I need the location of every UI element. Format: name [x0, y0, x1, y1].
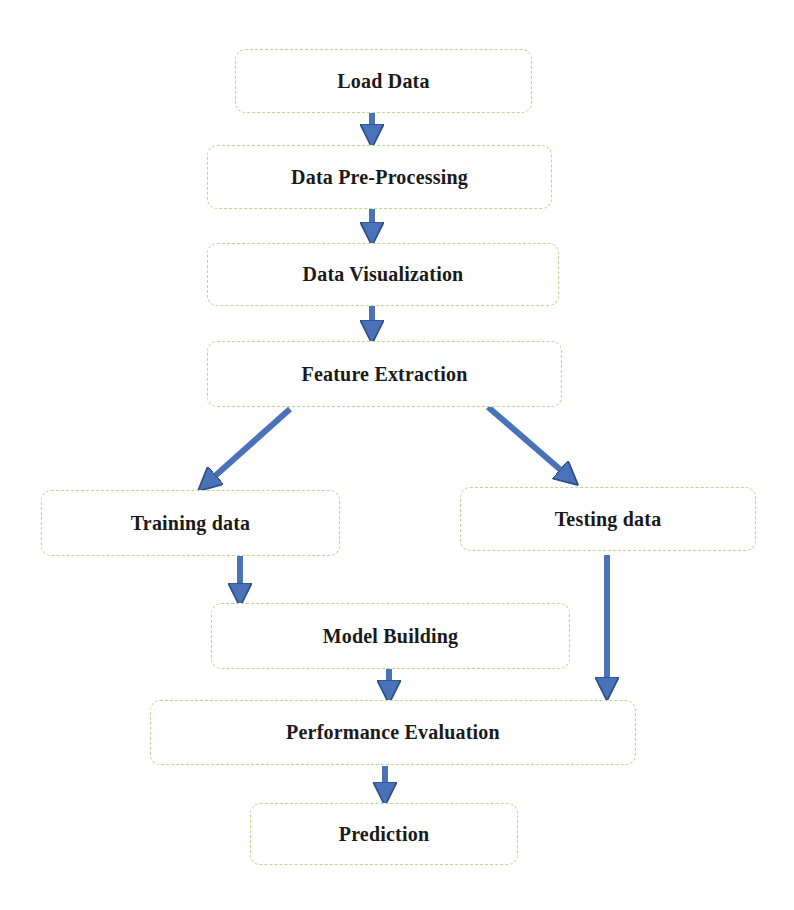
node-training-data: Training data [41, 490, 340, 556]
flowchart-canvas: Load Data Data Pre-Processing Data Visua… [0, 0, 794, 910]
node-data-visualization: Data Visualization [207, 243, 559, 306]
node-performance-evaluation: Performance Evaluation [150, 700, 636, 765]
node-label: Training data [131, 512, 250, 535]
arrow-features-to-testing [488, 407, 570, 478]
node-label: Feature Extraction [302, 363, 468, 386]
node-label: Performance Evaluation [286, 721, 500, 744]
node-label: Testing data [555, 508, 662, 531]
node-label: Data Pre-Processing [291, 166, 468, 189]
node-label: Load Data [337, 70, 429, 93]
node-testing-data: Testing data [460, 487, 756, 551]
node-data-pre-processing: Data Pre-Processing [207, 145, 552, 209]
node-load-data: Load Data [235, 49, 532, 113]
node-label: Model Building [323, 625, 459, 648]
node-label: Prediction [339, 823, 430, 846]
node-label: Data Visualization [303, 263, 464, 286]
node-model-building: Model Building [211, 603, 570, 669]
flow-arrows [0, 0, 794, 910]
node-feature-extraction: Feature Extraction [207, 341, 562, 407]
arrow-features-to-training [206, 409, 290, 484]
node-prediction: Prediction [250, 803, 518, 865]
